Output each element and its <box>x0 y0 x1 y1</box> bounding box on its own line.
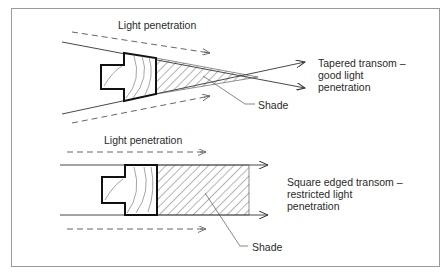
shade-area-square <box>157 165 249 215</box>
transom-diagram <box>0 0 446 277</box>
shade-label-bottom: Shade <box>252 241 282 253</box>
square-transom-caption: Square edged transom – restricted light … <box>287 176 403 212</box>
transom-profile-square <box>102 165 157 215</box>
shade-area-tapered <box>156 58 258 94</box>
light-penetration-label-bottom: Light penetration <box>104 134 182 146</box>
square-transom-group <box>60 152 268 246</box>
transom-profile-tapered <box>101 53 156 101</box>
shade-label-top: Shade <box>258 99 288 111</box>
light-penetration-label-top: Light penetration <box>118 19 196 31</box>
light-ray-dashed-upper <box>72 32 210 53</box>
tapered-transom-caption: Tapered transom – good light penetration <box>318 57 406 93</box>
light-ray-dashed-lower <box>72 96 210 123</box>
